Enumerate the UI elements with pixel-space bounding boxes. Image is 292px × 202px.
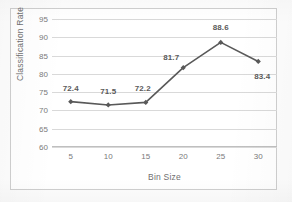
x-axis-tick-label: 20 <box>179 152 188 161</box>
data-point-marker <box>106 102 111 107</box>
data-point-label: 88.6 <box>213 23 229 32</box>
data-point-label: 81.7 <box>163 52 179 61</box>
x-axis-title: Bin Size <box>52 172 277 182</box>
x-axis-tick-label: 30 <box>254 152 263 161</box>
x-axis-tick-label: 10 <box>104 152 113 161</box>
gridline <box>52 147 277 148</box>
x-axis-tick-label: 25 <box>216 152 225 161</box>
chart-figure: Classification Rate 9590858075706560 72.… <box>0 0 292 202</box>
x-axis-tick-label: 15 <box>141 152 150 161</box>
data-point-label: 72.2 <box>135 84 151 93</box>
line-series <box>52 19 277 147</box>
y-axis-tick-labels: 9590858075706560 <box>24 19 48 147</box>
y-axis-tick-label: 75 <box>39 88 48 97</box>
y-axis-tick-label: 80 <box>39 69 48 78</box>
y-axis-tick-label: 70 <box>39 106 48 115</box>
y-axis-tick-label: 90 <box>39 33 48 42</box>
data-point-marker <box>68 99 73 104</box>
data-point-label: 83.4 <box>254 72 270 81</box>
plot-area: 72.471.572.281.788.683.4 <box>52 19 277 147</box>
y-axis-tick-label: 85 <box>39 51 48 60</box>
x-axis-tick-labels: 51015202530 <box>52 152 277 166</box>
y-axis-tick-label: 95 <box>39 15 48 24</box>
y-axis-tick-label: 65 <box>39 124 48 133</box>
data-point-label: 72.4 <box>63 83 79 92</box>
y-axis-tick-label: 60 <box>39 143 48 152</box>
x-axis-tick-label: 5 <box>68 152 73 161</box>
data-point-label: 71.5 <box>100 86 116 95</box>
